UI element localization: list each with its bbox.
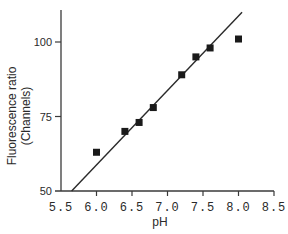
scatter-chart: 50751005.56.06.57.07.58.08.5 pHFluoresce… bbox=[0, 0, 288, 234]
x-tick-label: 8.5 bbox=[262, 201, 287, 215]
x-tick-label: 7.5 bbox=[191, 201, 216, 215]
data-point-square bbox=[207, 44, 214, 51]
x-tick-label: 6.0 bbox=[84, 201, 109, 215]
x-tick-label: 5.5 bbox=[49, 201, 74, 215]
y-tick-label: 100 bbox=[34, 36, 52, 48]
data-points bbox=[93, 36, 242, 156]
data-point-square bbox=[136, 119, 143, 126]
x-tick-label: 7.0 bbox=[155, 201, 180, 215]
fit-line bbox=[72, 12, 242, 191]
y-axis-title: Fluorescence ratio bbox=[5, 66, 19, 165]
data-point-square bbox=[121, 128, 128, 135]
data-point-square bbox=[192, 53, 199, 60]
y-tick-label: 50 bbox=[40, 185, 52, 197]
data-point-square bbox=[93, 149, 100, 156]
y-axis-subtitle: (Channels) bbox=[19, 87, 33, 146]
x-axis-title: pH bbox=[152, 215, 167, 229]
data-point-square bbox=[150, 104, 157, 111]
data-point-square bbox=[235, 36, 242, 43]
axes: 50751005.56.06.57.07.58.08.5 bbox=[34, 10, 287, 215]
regression-line bbox=[72, 12, 242, 191]
x-tick-label: 6.5 bbox=[120, 201, 145, 215]
y-tick-label: 75 bbox=[40, 111, 52, 123]
data-point-square bbox=[178, 71, 185, 78]
x-tick-label: 8.0 bbox=[226, 201, 251, 215]
